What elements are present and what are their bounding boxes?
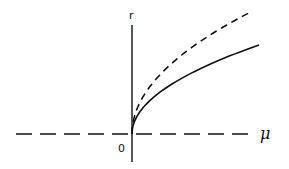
bifurcation-diagram: r μ 0	[0, 0, 289, 169]
solid-branch-curve	[132, 45, 259, 134]
r-axis-label: r	[129, 9, 134, 22]
mu-axis-label: μ	[260, 124, 270, 143]
origin-label: 0	[118, 142, 125, 155]
